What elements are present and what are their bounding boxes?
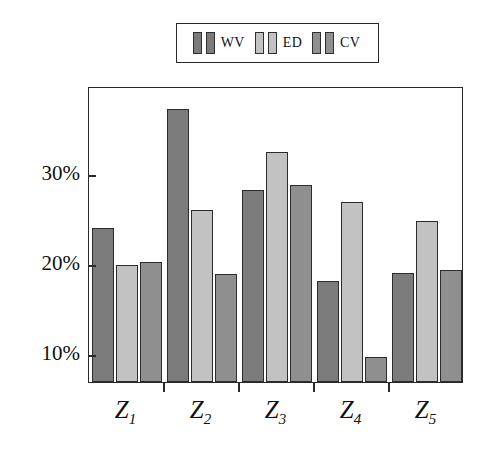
bar-z1-wv xyxy=(92,228,114,382)
bar-z3-wv xyxy=(242,190,264,382)
bar-chart-figure: WV ED CV 10%20%30% Z1Z2Z3Z4Z5 xyxy=(0,0,486,469)
x-tick-base: Z xyxy=(340,396,354,423)
x-tick-subscript: 2 xyxy=(204,411,212,427)
x-tick-subscript: 1 xyxy=(129,411,137,427)
x-tick-base: Z xyxy=(265,396,279,423)
legend-entry-ed: ED xyxy=(251,32,308,54)
legend-swatch-wv-a xyxy=(193,32,202,54)
legend-swatch-group-wv xyxy=(193,32,215,54)
y-tick-label: 20% xyxy=(4,251,80,276)
x-tick-subscript: 4 xyxy=(354,411,362,427)
y-tick-label: 30% xyxy=(4,161,80,186)
legend-swatch-cv-b xyxy=(325,32,334,54)
bar-z4-wv xyxy=(317,281,339,382)
legend-swatch-group-ed xyxy=(255,32,277,54)
bar-z2-cv xyxy=(215,274,237,382)
bar-z5-wv xyxy=(392,273,414,382)
x-tick-base: Z xyxy=(415,396,429,423)
x-tick-base: Z xyxy=(190,396,204,423)
legend-label-wv: WV xyxy=(219,35,247,51)
x-tick-label-z1: Z1 xyxy=(86,396,166,428)
x-tick-mark xyxy=(163,383,165,392)
bar-z2-ed xyxy=(191,210,213,382)
x-tick-subscript: 5 xyxy=(429,411,437,427)
legend-swatch-ed-b xyxy=(268,32,277,54)
bar-z5-cv xyxy=(440,270,462,382)
x-tick-subscript: 3 xyxy=(279,411,287,427)
bar-z3-cv xyxy=(290,185,312,382)
legend-label-ed: ED xyxy=(281,35,304,51)
x-tick-label-z3: Z3 xyxy=(236,396,316,428)
x-tick-label-z4: Z4 xyxy=(311,396,391,428)
chart-legend: WV ED CV xyxy=(176,23,379,63)
x-tick-base: Z xyxy=(115,396,129,423)
x-tick-mark xyxy=(388,383,390,392)
legend-entry-cv: CV xyxy=(308,32,366,54)
legend-label-cv: CV xyxy=(338,35,362,51)
legend-swatch-group-cv xyxy=(312,32,334,54)
x-tick-label-z5: Z5 xyxy=(386,396,466,428)
y-axis: 10%20%30% xyxy=(0,0,80,469)
legend-swatch-ed-a xyxy=(255,32,264,54)
bar-z3-ed xyxy=(266,152,288,382)
bars-container xyxy=(89,88,462,382)
x-tick-mark xyxy=(313,383,315,392)
bar-z4-ed xyxy=(341,202,363,382)
legend-entry-wv: WV xyxy=(189,32,251,54)
bar-z4-cv xyxy=(365,357,387,382)
bar-z5-ed xyxy=(416,221,438,382)
y-tick-mark xyxy=(88,265,96,267)
x-tick-label-z2: Z2 xyxy=(161,396,241,428)
legend-swatch-wv-b xyxy=(206,32,215,54)
bar-z1-ed xyxy=(116,265,138,382)
y-tick-mark xyxy=(88,355,96,357)
y-tick-label: 10% xyxy=(4,341,80,366)
legend-swatch-cv-a xyxy=(312,32,321,54)
x-tick-mark xyxy=(238,383,240,392)
y-tick-mark xyxy=(88,175,96,177)
bar-z2-wv xyxy=(167,109,189,382)
bar-z1-cv xyxy=(140,262,162,382)
plot-area xyxy=(88,87,463,383)
